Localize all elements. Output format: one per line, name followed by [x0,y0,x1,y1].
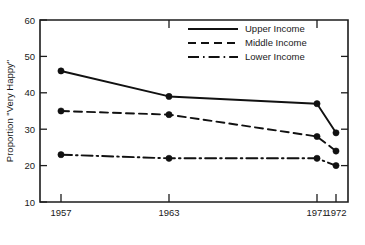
legend-label-upper-income: Upper Income [245,23,305,34]
y-tick-label: 30 [24,124,35,135]
data-point [58,68,64,74]
y-axis-title: Proportion "Very Happy" [4,60,15,162]
chart-figure: 60 50 40 30 20 10 Proportion "Very Happy… [0,0,365,245]
data-point [166,155,172,161]
data-point [166,112,172,118]
x-tick-label: 1957 [50,207,71,218]
y-tick-label: 40 [24,87,35,98]
y-tick-label: 20 [24,160,35,171]
legend-label-middle-income: Middle Income [245,37,307,48]
data-point [333,148,339,154]
data-point [166,93,172,99]
y-tick-label: 60 [24,15,35,26]
x-tick-label: 1971 [306,207,327,218]
line-chart: 60 50 40 30 20 10 Proportion "Very Happy… [0,0,365,245]
data-point [314,133,320,139]
data-point [314,155,320,161]
x-tick-label: 1972 [325,207,346,218]
x-tick-label: 1963 [158,207,179,218]
legend-label-lower-income: Lower Income [245,51,305,62]
data-point [333,163,339,169]
data-point [314,101,320,107]
y-tick-label: 50 [24,51,35,62]
data-point [58,152,64,158]
y-tick-label: 10 [24,197,35,208]
data-point [58,108,64,114]
data-point [333,130,339,136]
